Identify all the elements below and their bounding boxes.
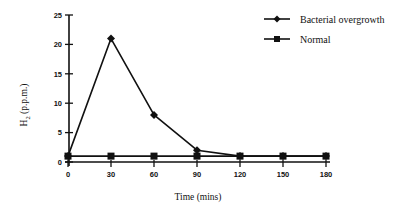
svg-text:H2 (p.p.m.): H2 (p.p.m.)	[19, 84, 31, 127]
y-tick-label: 25	[54, 11, 62, 20]
legend: Bacterial overgrowth Normal	[264, 14, 385, 45]
y-tick-label: 5	[58, 128, 62, 137]
square-marker-icon	[274, 36, 280, 42]
legend-label-bacterial: Bacterial overgrowth	[300, 14, 385, 25]
diamond-marker-icon	[107, 35, 115, 43]
x-tick-label: 120	[234, 170, 247, 179]
square-marker-icon	[151, 153, 158, 160]
x-tick-label: 30	[107, 170, 115, 179]
x-tick-label: 90	[193, 170, 201, 179]
legend-label-normal: Normal	[300, 34, 331, 45]
legend-item-bacterial: Bacterial overgrowth	[264, 14, 385, 25]
x-axis-title: Time (mins)	[175, 192, 222, 203]
y-axis-title-units: (p.p.m.)	[19, 84, 30, 117]
diamond-marker-icon	[274, 16, 281, 23]
series-bacterial-overgrowth	[64, 35, 330, 161]
line-chart: 0510152025 0306090120150180 Time (mins) …	[0, 0, 410, 214]
y-tick-label: 15	[54, 70, 62, 79]
x-tick-label: 180	[320, 170, 333, 179]
x-tick-label: 0	[66, 170, 70, 179]
y-tick-label: 10	[54, 99, 62, 108]
y-axis-title: H2 (p.p.m.)	[19, 84, 31, 127]
y-tick-label: 0	[58, 158, 62, 167]
x-tick-label: 150	[277, 170, 290, 179]
series-layer	[64, 35, 330, 161]
square-marker-icon	[108, 153, 115, 160]
y-tick-label: 20	[54, 40, 62, 49]
y-axis: 0510152025	[54, 11, 73, 167]
x-tick-label: 60	[150, 170, 158, 179]
x-axis: 0306090120150180	[65, 160, 332, 179]
legend-item-normal: Normal	[264, 34, 331, 45]
